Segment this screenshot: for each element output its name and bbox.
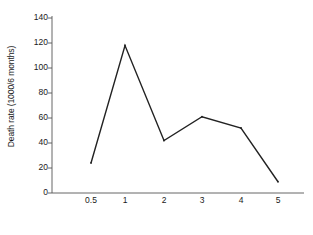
data-point [90,162,92,164]
y-axis-ticks [48,18,52,193]
data-point [240,127,242,129]
data-series-line [91,46,278,182]
data-point [124,45,126,47]
data-point [201,116,203,118]
plot-area [0,0,313,235]
data-point-markers [90,45,279,183]
data-point [163,140,165,142]
data-point [277,181,279,183]
line-chart-figure: Death rate (1000/6 months) 140 120 100 8… [0,0,313,235]
